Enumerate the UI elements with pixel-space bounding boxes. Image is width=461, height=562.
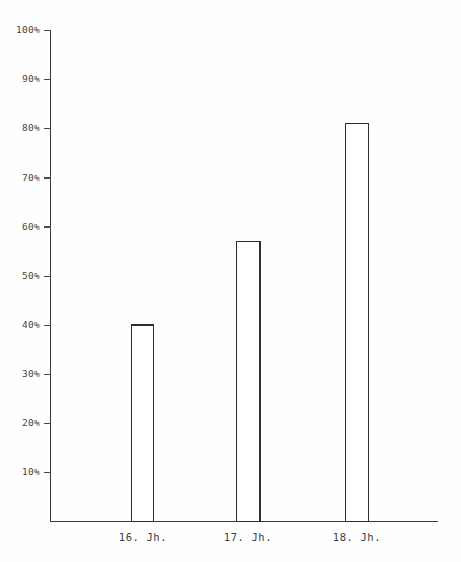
y-axis-label-30: 30% <box>0 369 40 379</box>
y-axis-label-10: 10% <box>0 467 40 477</box>
y-axis-label-70: 70% <box>0 173 40 183</box>
y-axis-label-40: 40% <box>0 320 40 330</box>
y-axis-label-100: 100% <box>0 25 40 35</box>
chart-canvas <box>0 0 461 562</box>
y-axis-label-50: 50% <box>0 271 40 281</box>
plot-area <box>0 0 461 562</box>
bar-18-jh <box>346 123 369 521</box>
bar-chart: 100% 90% 80% 70% 60% 50% 40% 30% 20% 10%… <box>0 0 461 562</box>
bar-17-jh <box>237 241 261 521</box>
bar-16-jh <box>132 325 154 522</box>
x-axis-label-17-jh: 17. Jh. <box>207 532 289 543</box>
y-axis-label-20: 20% <box>0 418 40 428</box>
y-axis-label-80: 80% <box>0 123 40 133</box>
x-axis-label-16-jh: 16. Jh. <box>102 532 184 543</box>
y-axis-label-90: 90% <box>0 74 40 84</box>
x-axis-label-18-jh: 18. Jh. <box>316 532 398 543</box>
y-axis-label-60: 60% <box>0 222 40 232</box>
